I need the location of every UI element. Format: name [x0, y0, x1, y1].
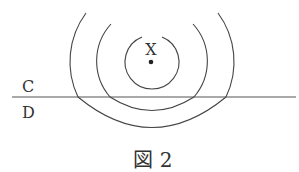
region-label-d: D: [22, 103, 35, 122]
region-label-c: C: [22, 77, 34, 96]
middle-wavefront-upper-right: [193, 24, 207, 97]
figure-caption: 図 2: [133, 148, 172, 172]
middle-wavefront-upper: [97, 24, 111, 97]
outer-wavefront-lower: [78, 97, 226, 128]
middle-wavefront-lower: [110, 97, 194, 111]
wave-refraction-diagram: X C D 図 2: [0, 0, 299, 172]
outer-wavefront-upper-left: [70, 13, 86, 97]
outer-wavefront-upper-right: [218, 13, 234, 97]
source-point: [149, 60, 154, 65]
source-label: X: [145, 40, 157, 59]
